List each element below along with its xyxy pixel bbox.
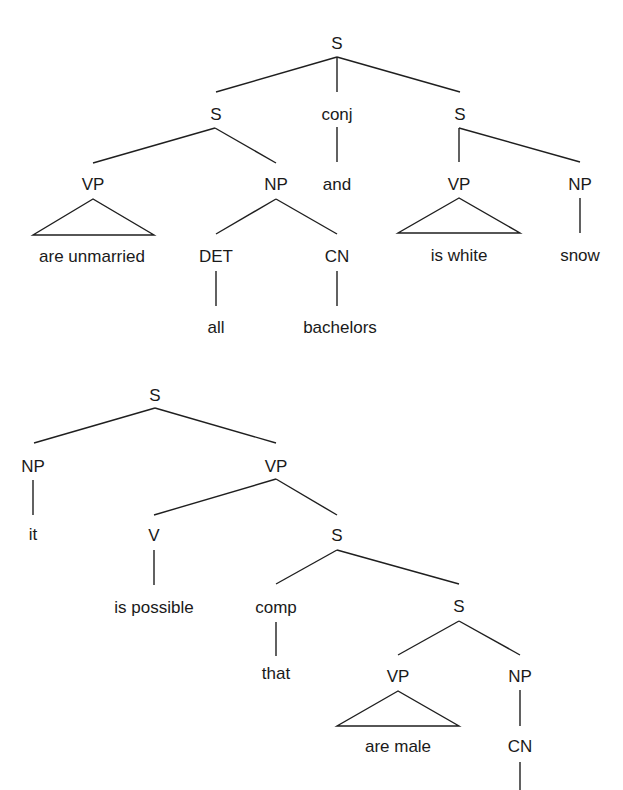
edge — [34, 408, 155, 443]
syntax-tree-diagram: S S conj S VP NP and VP NP are unmarried… — [0, 0, 623, 790]
edge — [398, 621, 459, 655]
phrase-triangle — [337, 691, 459, 726]
node-label: VP — [387, 667, 410, 686]
node-label: CN — [325, 247, 350, 266]
edge — [154, 479, 276, 515]
node-label: NP — [508, 667, 532, 686]
phrase-triangle — [33, 199, 154, 235]
node-label: V — [148, 526, 160, 545]
edge — [215, 128, 276, 163]
node-label: S — [454, 105, 465, 124]
phrase-triangle — [398, 198, 520, 233]
tree-1: S S conj S VP NP and VP NP are unmarried… — [33, 34, 601, 337]
edge — [276, 550, 337, 584]
edge — [459, 128, 580, 162]
node-label: is possible — [114, 598, 193, 617]
node-label: NP — [264, 175, 288, 194]
node-label: all — [207, 318, 224, 337]
edge — [216, 199, 276, 234]
node-label: and — [323, 175, 351, 194]
node-label: NP — [568, 175, 592, 194]
edge — [337, 57, 460, 92]
node-label: NP — [21, 457, 45, 476]
node-label: CN — [508, 737, 533, 756]
node-label: S — [331, 526, 342, 545]
edge — [93, 128, 215, 163]
node-label: VP — [82, 175, 105, 194]
edge — [459, 621, 520, 655]
node-label: bachelors — [303, 318, 377, 337]
node-label: S — [453, 597, 464, 616]
node-label: S — [210, 105, 221, 124]
edge — [276, 199, 337, 234]
node-label: S — [331, 34, 342, 53]
node-label: it — [29, 525, 38, 544]
node-label: VP — [448, 175, 471, 194]
node-label: DET — [199, 247, 233, 266]
edge — [155, 408, 276, 443]
node-label: that — [262, 664, 291, 683]
node-label: are unmarried — [39, 247, 145, 266]
edge — [216, 57, 337, 92]
node-label: comp — [255, 598, 297, 617]
node-label: S — [149, 386, 160, 405]
edge — [276, 479, 337, 515]
node-label: is white — [431, 246, 488, 265]
edge — [337, 550, 459, 584]
node-label: are male — [365, 737, 431, 756]
node-label: snow — [560, 246, 600, 265]
tree-2: S NP VP it V S is possible comp S that V… — [21, 386, 532, 790]
node-label: conj — [321, 105, 352, 124]
node-label: VP — [265, 457, 288, 476]
